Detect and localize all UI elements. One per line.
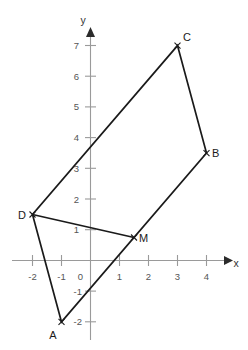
y-tick-label-6: 6 bbox=[74, 71, 79, 82]
y-axis-arrowhead bbox=[86, 27, 95, 37]
point-label-d: D bbox=[18, 209, 26, 221]
point-label-m: M bbox=[139, 232, 148, 244]
x-tick-label-4: 4 bbox=[204, 271, 209, 282]
y-tick-labels-group: 7 6 5 4 3 2 1 -1 -2 bbox=[74, 40, 82, 327]
point-label-b: B bbox=[212, 147, 219, 159]
y-tick-label-4: 4 bbox=[74, 132, 79, 143]
x-axis-arrowhead bbox=[224, 256, 233, 265]
x-tick-label-neg1: -1 bbox=[57, 271, 65, 282]
y-tick-label-2: 2 bbox=[74, 194, 79, 205]
x-axis-label: x bbox=[233, 257, 239, 269]
x-tick-labels-group: -2 -1 1 2 3 4 bbox=[28, 271, 209, 282]
axes-group bbox=[12, 27, 233, 340]
point-labels-group: A B C D M bbox=[18, 31, 219, 341]
y-tick-label-neg2: -2 bbox=[74, 316, 82, 327]
x-tick-label-3: 3 bbox=[175, 271, 180, 282]
y-axis-label: y bbox=[80, 14, 86, 26]
y-tick-label-5: 5 bbox=[74, 101, 79, 112]
segment-dm bbox=[33, 215, 135, 238]
x-tick-label-1: 1 bbox=[117, 271, 122, 282]
x-tick-label-2: 2 bbox=[146, 271, 151, 282]
point-label-c: C bbox=[183, 31, 191, 43]
coordinate-figure: -2 -1 1 2 3 4 7 6 5 4 3 2 1 -1 -2 0 x y bbox=[0, 0, 248, 350]
y-tick-label-1: 1 bbox=[74, 224, 79, 235]
point-markers-group bbox=[30, 43, 210, 325]
x-tick-label-neg2: -2 bbox=[28, 271, 36, 282]
plot-canvas: -2 -1 1 2 3 4 7 6 5 4 3 2 1 -1 -2 0 x y bbox=[0, 0, 248, 350]
origin-label: 0 bbox=[78, 271, 83, 282]
y-tick-label-neg1: -1 bbox=[74, 286, 82, 297]
point-label-a: A bbox=[49, 329, 57, 341]
y-tick-label-7: 7 bbox=[74, 40, 79, 51]
